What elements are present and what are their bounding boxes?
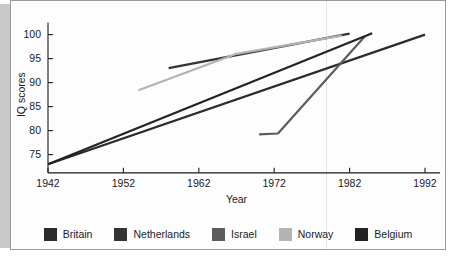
legend-item-netherlands[interactable]: Netherlands (114, 228, 190, 241)
y-axis-tick-label: 85 (29, 100, 41, 112)
x-axis-tick-label: 1992 (413, 177, 437, 189)
legend-label: Norway (298, 228, 334, 241)
y-axis-tick-label: 100 (23, 28, 41, 40)
legend-swatch-icon (355, 228, 368, 241)
legend-label: Israel (231, 228, 257, 241)
legend-swatch-icon (114, 228, 127, 241)
legend-label: Netherlands (133, 228, 190, 241)
legend-swatch-icon (212, 228, 225, 241)
chart-card-inner: 7580859095100194219521962197219821992IQ … (11, 1, 445, 249)
y-axis-tick-label: 75 (29, 148, 41, 160)
chart-legend: BritainNetherlandsIsraelNorwayBelgium (11, 228, 445, 241)
series-line-belgium (48, 33, 372, 164)
x-axis-tick-label: 1982 (338, 177, 362, 189)
x-axis-title: Year (226, 193, 248, 205)
legend-label: Belgium (374, 228, 412, 241)
x-axis-tick-label: 1972 (263, 177, 287, 189)
legend-label: Britain (63, 228, 93, 241)
chart-screenshot: 7580859095100194219521962197219821992IQ … (0, 0, 454, 266)
x-axis-tick-label: 1952 (112, 177, 136, 189)
y-axis-tick-label: 95 (29, 52, 41, 64)
legend-item-belgium[interactable]: Belgium (355, 228, 412, 241)
series-line-norway (138, 36, 342, 91)
legend-item-britain[interactable]: Britain (44, 228, 93, 241)
y-axis-tick-label: 90 (29, 76, 41, 88)
legend-swatch-icon (44, 228, 57, 241)
axis-labels-group: 7580859095100194219521962197219821992IQ … (15, 28, 437, 204)
iq-scores-line-chart: 7580859095100194219521962197219821992IQ … (11, 1, 445, 249)
y-axis-title: IQ scores (15, 72, 27, 117)
y-axis-tick-label: 80 (29, 124, 41, 136)
legend-item-norway[interactable]: Norway (279, 228, 334, 241)
chart-card: 7580859095100194219521962197219821992IQ … (10, 0, 446, 250)
series-group (48, 33, 425, 164)
legend-item-israel[interactable]: Israel (212, 228, 257, 241)
x-axis-tick-label: 1942 (36, 177, 60, 189)
x-axis-tick-label: 1962 (187, 177, 211, 189)
legend-swatch-icon (279, 228, 292, 241)
